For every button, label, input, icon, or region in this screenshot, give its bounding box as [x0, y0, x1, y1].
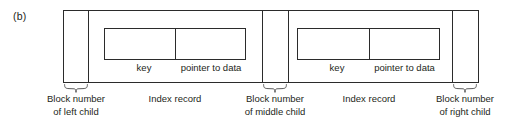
cell-divider-middle-start: [262, 10, 263, 83]
figure-label: (b): [13, 10, 26, 22]
caption-middle-child: Block number of middle child: [225, 93, 325, 118]
caption-left-child: Block number of left child: [26, 93, 126, 118]
pointer-to-data-label-1: pointer to data: [175, 62, 247, 73]
caption-middle-child-line2: of middle child: [225, 106, 325, 119]
caption-left-child-line2: of left child: [26, 106, 126, 119]
cell-divider-right: [452, 10, 453, 83]
caption-right-child-line2: of right child: [415, 106, 512, 119]
caption-right-child: Block number of right child: [415, 93, 512, 118]
index-record-box-1: [104, 28, 246, 60]
index-record-field-divider-1: [175, 29, 176, 59]
index-record-box-2: [297, 28, 440, 60]
key-label-1: key: [113, 62, 175, 73]
caption-left-child-line1: Block number: [26, 93, 126, 106]
pointer-to-data-label-2: pointer to data: [368, 62, 441, 73]
caption-right-child-line1: Block number: [415, 93, 512, 106]
brace-right-child-icon: [453, 84, 477, 93]
cell-divider-left: [88, 10, 89, 83]
caption-index-record-1: Index record: [130, 93, 220, 106]
brace-middle-child-icon: [263, 84, 287, 93]
key-label-2: key: [306, 62, 368, 73]
cell-divider-middle-end: [288, 10, 289, 83]
index-record-field-divider-2: [369, 29, 370, 59]
caption-index-record-2: Index record: [324, 93, 414, 106]
brace-left-child-icon: [64, 84, 88, 93]
caption-middle-child-line1: Block number: [225, 93, 325, 106]
